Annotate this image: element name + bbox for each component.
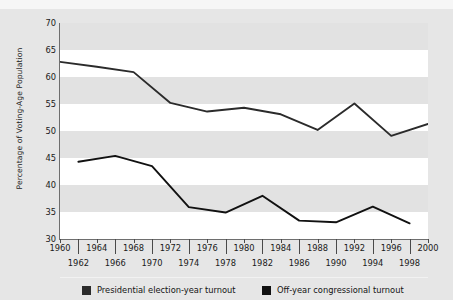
x-tick-label: 1974 xyxy=(178,258,199,268)
legend-divider xyxy=(60,277,428,278)
x-tick-mark xyxy=(78,239,79,254)
legend-swatch-icon xyxy=(262,286,271,295)
x-tick-label: 1978 xyxy=(215,258,236,268)
x-tick-label: 1980 xyxy=(233,243,254,253)
x-tick-label: 1966 xyxy=(105,258,126,268)
y-tick-label: 65 xyxy=(30,45,56,55)
x-tick-label: 1982 xyxy=(252,258,273,268)
legend-swatch-icon xyxy=(82,286,91,295)
x-tick-label: 1964 xyxy=(86,243,107,253)
y-tick-label: 70 xyxy=(30,18,56,28)
y-tick-label: 35 xyxy=(30,207,56,217)
x-tick-label: 1970 xyxy=(141,258,162,268)
x-axis-ticks: 1960196219641966196819701972197419761978… xyxy=(0,239,453,273)
x-tick-label: 1960 xyxy=(49,243,70,253)
legend-label: Presidential election-year turnout xyxy=(97,285,236,295)
x-tick-mark xyxy=(152,239,153,254)
legend-item: Presidential election-year turnout xyxy=(82,285,236,295)
x-tick-label: 1996 xyxy=(381,243,402,253)
y-axis-title: Percentage of Voting-Age Population xyxy=(15,14,24,224)
y-axis-ticks: 303540455055606570 xyxy=(28,9,56,254)
x-tick-mark xyxy=(262,239,263,254)
top-strip xyxy=(0,0,453,9)
x-tick-mark xyxy=(410,239,411,254)
x-tick-label: 2000 xyxy=(417,243,438,253)
x-tick-label: 1962 xyxy=(68,258,89,268)
x-tick-label: 1994 xyxy=(362,258,383,268)
chart-page: Percentage of Voting-Age Population 3035… xyxy=(0,0,453,300)
x-tick-label: 1976 xyxy=(197,243,218,253)
y-tick-label: 55 xyxy=(30,99,56,109)
x-tick-mark xyxy=(226,239,227,254)
x-tick-label: 1992 xyxy=(344,243,365,253)
x-tick-label: 1972 xyxy=(160,243,181,253)
x-tick-mark xyxy=(115,239,116,254)
x-tick-label: 1986 xyxy=(289,258,310,268)
chart-legend: Presidential election-year turnoutOff-ye… xyxy=(0,285,453,300)
y-tick-label: 50 xyxy=(30,126,56,136)
x-tick-mark xyxy=(336,239,337,254)
y-tick-label: 40 xyxy=(30,180,56,190)
chart-figure: Percentage of Voting-Age Population 3035… xyxy=(0,9,453,300)
x-tick-label: 1988 xyxy=(307,243,328,253)
chart-series-lines xyxy=(60,23,428,239)
x-tick-label: 1968 xyxy=(123,243,144,253)
x-tick-label: 1990 xyxy=(325,258,346,268)
x-tick-mark xyxy=(189,239,190,254)
x-tick-mark xyxy=(373,239,374,254)
legend-item: Off-year congressional turnout xyxy=(262,285,404,295)
series-line xyxy=(78,156,409,224)
legend-label: Off-year congressional turnout xyxy=(277,285,404,295)
y-tick-label: 45 xyxy=(30,153,56,163)
x-tick-label: 1998 xyxy=(399,258,420,268)
x-tick-mark xyxy=(299,239,300,254)
y-tick-label: 60 xyxy=(30,72,56,82)
series-line xyxy=(60,62,428,136)
x-tick-label: 1984 xyxy=(270,243,291,253)
